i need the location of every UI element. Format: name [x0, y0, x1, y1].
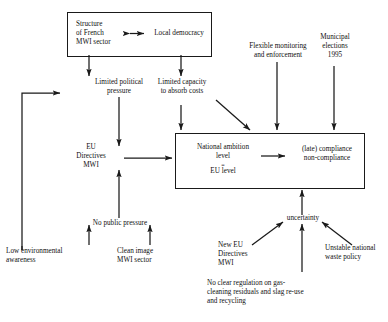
node-no-public-pressure: No public pressure — [76, 219, 164, 228]
node-unstable-national-waste-policy: Unstable national waste policy — [325, 244, 387, 262]
arrow-limited-capacity-diagonal-to-main-box — [216, 100, 250, 130]
node-eu-directives-mwi: EU Directives MWI — [62, 143, 120, 171]
node-uncertainty: uncertainty — [275, 214, 331, 223]
node-compliance-noncompliance: (late) compliance non-compliance — [288, 145, 366, 163]
arrow-unstable-waste-policy-to-uncertainty — [322, 222, 352, 245]
node-clean-image-mwi-sector: Clean image MWI sector — [117, 247, 187, 265]
node-limited-capacity-absorb-costs: Limited capacity to absorb costs — [140, 78, 224, 96]
node-no-clear-regulation: No clear regulation on gas- cleaning res… — [207, 279, 357, 307]
node-structure-french-mwi: Structure of French MWI sector — [76, 20, 136, 48]
diagram-canvas: Structure of French MWI sector Local dem… — [0, 0, 388, 322]
node-low-environmental-awareness: Low environmental awareness — [6, 247, 90, 265]
node-municipal-elections-1995: Municipal elections 1995 — [306, 33, 364, 61]
node-eu-level: EU level — [180, 167, 266, 176]
node-national-ambition-level: National ambition level — [180, 143, 266, 161]
node-new-eu-directives-mwi: New EU Directives MWI — [218, 241, 268, 269]
node-local-democracy: Local democracy — [148, 29, 210, 38]
arrow-low-environmental-awareness-loop-to-limited-political-pressure — [22, 93, 60, 250]
